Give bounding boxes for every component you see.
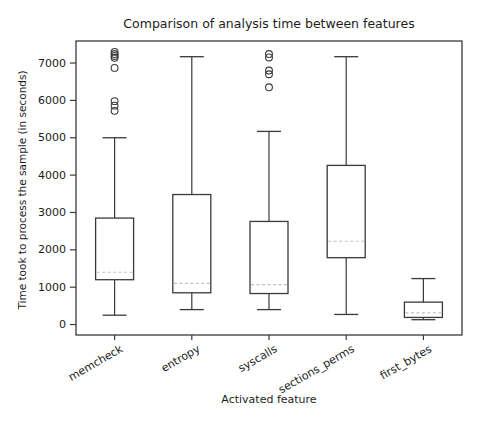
x-tick-label-first_bytes: first_bytes xyxy=(378,342,434,382)
y-tick-label: 5000 xyxy=(38,131,66,144)
x-tick-label-memcheck: memcheck xyxy=(66,342,125,384)
y-tick-label: 3000 xyxy=(38,206,66,219)
plot-area: 01000200030004000500060007000memcheckent… xyxy=(0,0,482,431)
y-tick-label: 1000 xyxy=(38,281,66,294)
y-tick-label: 2000 xyxy=(38,243,66,256)
outlier-memcheck xyxy=(111,98,118,105)
box-entropy xyxy=(173,195,211,293)
x-tick-label-syscalls: syscalls xyxy=(236,342,280,375)
y-tick-label: 7000 xyxy=(38,57,66,70)
x-tick-label-entropy: entropy xyxy=(159,342,203,375)
outlier-memcheck xyxy=(111,64,118,71)
y-tick-label: 6000 xyxy=(38,94,66,107)
box-sections_perms xyxy=(327,165,365,257)
box-syscalls xyxy=(250,221,288,293)
x-tick-label-sections_perms: sections_perms xyxy=(276,342,357,396)
boxplot-figure: Comparison of analysis time between feat… xyxy=(0,0,482,431)
y-tick-label: 0 xyxy=(59,318,66,331)
outlier-syscalls xyxy=(266,84,273,91)
y-tick-label: 4000 xyxy=(38,169,66,182)
box-first_bytes xyxy=(404,302,442,317)
box-memcheck xyxy=(96,218,134,280)
